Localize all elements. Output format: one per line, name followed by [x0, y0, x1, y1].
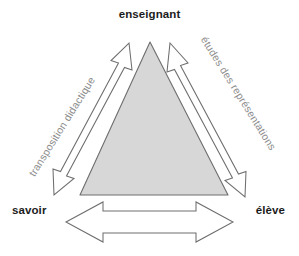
vertex-label-enseignant: enseignant	[0, 8, 299, 20]
vertex-label-savoir: savoir	[12, 204, 46, 216]
arrow-savoir-eleve	[66, 202, 233, 242]
vertex-label-eleve: élève	[256, 204, 285, 216]
diagram-canvas: enseignant savoir élève transposition di…	[0, 0, 299, 256]
